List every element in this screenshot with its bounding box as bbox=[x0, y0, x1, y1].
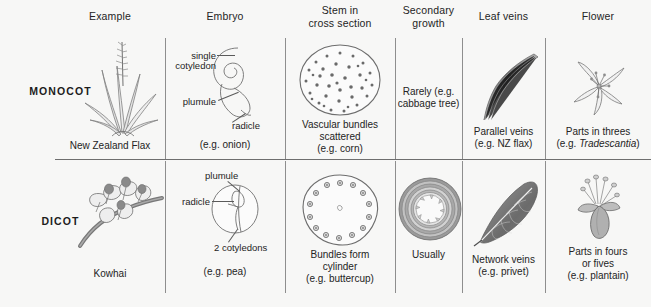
caption-monocot-flower-genus: Tradescantia bbox=[579, 138, 636, 149]
caption-dicot-stem-line2: cylinder bbox=[285, 261, 395, 273]
callout-leader-cotyledon bbox=[217, 55, 235, 56]
network-veins-leaf-illustration bbox=[470, 176, 542, 248]
callout-dicot-cotyledons: 2 cotyledons bbox=[214, 242, 267, 253]
caption-dicot-example: Kowhai bbox=[55, 268, 165, 280]
caption-monocot-stem-line1: Vascular bundles bbox=[285, 119, 395, 131]
column-header-leaf-veins: Leaf veins bbox=[462, 10, 545, 23]
callout-monocot-plumule: plumule bbox=[170, 96, 216, 107]
caption-monocot-flower-suffix: ) bbox=[636, 138, 639, 149]
caption-dicot-stem: Bundles form cylinder (e.g. buttercup) bbox=[285, 249, 395, 285]
parallel-veins-leaf-illustration bbox=[478, 48, 540, 124]
column-header-secondary-line1: Secondary bbox=[395, 4, 462, 17]
row-divider bbox=[55, 159, 651, 160]
kowhai-flower-illustration bbox=[76, 172, 166, 250]
column-header-flower: Flower bbox=[545, 10, 651, 23]
caption-monocot-secondary-line1: Rarely (e.g. bbox=[395, 86, 462, 98]
column-header-secondary-growth: Secondary growth bbox=[395, 4, 462, 29]
caption-monocot-example: New Zealand Flax bbox=[55, 140, 165, 152]
caption-dicot-leaf-veins: Network veins (e.g. privet) bbox=[462, 254, 545, 278]
column-header-stem-line1: Stem in bbox=[285, 4, 395, 17]
dicot-stem-cross-section-illustration bbox=[298, 172, 382, 248]
caption-dicot-leaf-line2: (e.g. privet) bbox=[462, 266, 545, 278]
caption-dicot-embryo: (e.g. pea) bbox=[165, 266, 285, 278]
caption-monocot-embryo: (e.g. onion) bbox=[165, 139, 285, 151]
caption-monocot-flower-line2: (e.g. Tradescantia) bbox=[545, 138, 651, 150]
caption-dicot-flower-line3: (e.g. plantain) bbox=[545, 270, 651, 282]
tradescantia-flower-illustration bbox=[568, 56, 630, 118]
flax-plant-illustration bbox=[78, 40, 164, 138]
caption-monocot-secondary-growth: Rarely (e.g. cabbage tree) bbox=[395, 86, 462, 110]
caption-monocot-flower-line1: Parts in threes bbox=[545, 126, 651, 138]
callout-monocot-radicle: radicle bbox=[232, 120, 260, 131]
monocot-stem-cross-section-illustration bbox=[296, 42, 384, 120]
column-header-stem-cross-section: Stem in cross section bbox=[285, 4, 395, 29]
callout-monocot-cotyledon: cotyledon bbox=[168, 60, 216, 71]
column-header-stem-line2: cross section bbox=[285, 17, 395, 30]
caption-dicot-flower-line2: or fives bbox=[545, 258, 651, 270]
caption-monocot-stem: Vascular bundles scattered (e.g. corn) bbox=[285, 119, 395, 155]
caption-monocot-flower-prefix: (e.g. bbox=[556, 138, 579, 149]
caption-dicot-leaf-line1: Network veins bbox=[462, 254, 545, 266]
caption-dicot-stem-line3: (e.g. buttercup) bbox=[285, 273, 395, 285]
column-divider-3-lower bbox=[395, 161, 396, 293]
caption-monocot-flower: Parts in threes (e.g. Tradescantia) bbox=[545, 126, 651, 150]
caption-dicot-flower: Parts in fours or fives (e.g. plantain) bbox=[545, 246, 651, 282]
caption-dicot-secondary-growth: Usually bbox=[395, 249, 462, 261]
caption-dicot-flower-line1: Parts in fours bbox=[545, 246, 651, 258]
caption-monocot-leaf-veins: Parallel veins (e.g. NZ flax) bbox=[462, 126, 545, 150]
tree-trunk-rings-illustration bbox=[398, 176, 462, 242]
caption-monocot-stem-line2: scattered bbox=[285, 131, 395, 143]
column-header-embryo: Embryo bbox=[165, 10, 285, 23]
caption-dicot-stem-line1: Bundles form bbox=[285, 249, 395, 261]
callout-dicot-radicle: radicle bbox=[168, 196, 210, 207]
monocot-dicot-comparison-table: Example Embryo Stem in cross section Sec… bbox=[0, 0, 651, 307]
column-header-secondary-line2: growth bbox=[395, 17, 462, 30]
caption-monocot-leaf-line2: (e.g. NZ flax) bbox=[462, 138, 545, 150]
caption-monocot-secondary-line2: cabbage tree) bbox=[395, 98, 462, 110]
plantain-flower-illustration bbox=[572, 172, 628, 242]
caption-monocot-leaf-line1: Parallel veins bbox=[462, 126, 545, 138]
callout-leader-dicot-radicle bbox=[212, 201, 234, 202]
caption-monocot-stem-line3: (e.g. corn) bbox=[285, 143, 395, 155]
column-header-example: Example bbox=[55, 10, 165, 23]
callout-dicot-plumule: plumule bbox=[205, 170, 238, 181]
